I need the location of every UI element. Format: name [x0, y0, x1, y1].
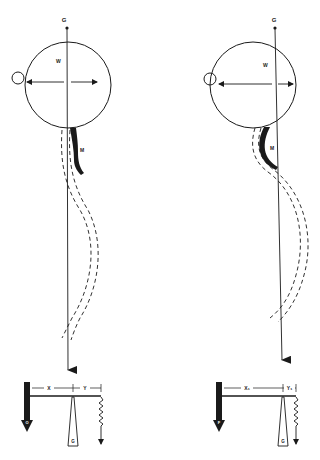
right-gravity-line: [275, 29, 282, 360]
right-weight-label: G: [281, 439, 285, 444]
right-member: [259, 127, 278, 170]
left-panel: G W M O X Y G: [12, 17, 111, 446]
right-force-block: [216, 382, 222, 422]
left-small-ball: [12, 72, 24, 84]
left-spring: [99, 397, 103, 426]
left-gravity-label: G: [62, 17, 67, 23]
left-sphere: [25, 42, 111, 128]
diagram-canvas: G W M O X Y G: [0, 0, 320, 460]
left-force-label: O: [25, 420, 28, 425]
right-distance-y-label: Y₁: [287, 385, 292, 391]
right-sphere: [210, 42, 296, 128]
left-force-block: [24, 382, 30, 422]
right-deflection-curve-outer: [253, 128, 301, 318]
left-member-label: M: [80, 147, 84, 153]
left-deflection-curve-inner: [70, 130, 99, 340]
left-weight-label: G: [71, 439, 75, 444]
right-member-label: M: [270, 145, 274, 151]
right-gravity-label: G: [272, 17, 277, 23]
right-distance-x-label: X₁: [244, 385, 249, 391]
left-gravity-line: [67, 29, 68, 370]
right-sphere-label: W: [263, 62, 268, 68]
right-spring: [294, 397, 298, 426]
left-sphere-label: W: [56, 58, 61, 64]
right-panel: G W M F X₁ Y₁ G: [204, 17, 308, 446]
